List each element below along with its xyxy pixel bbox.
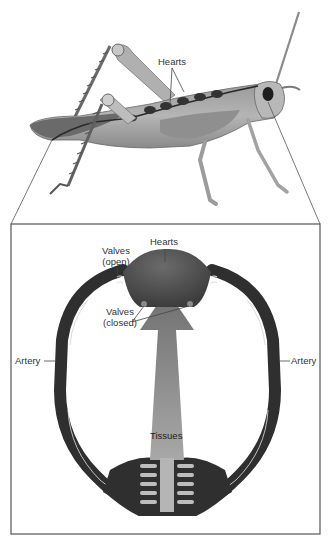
label-tissues: Tissues [150, 430, 182, 441]
figure-graphics [0, 0, 335, 542]
label-hearts-top: Hearts [158, 56, 186, 67]
open-circulatory-system-figure: Hearts Hearts Valves (open) Valves (clos… [0, 0, 335, 542]
label-valves-closed-line1: Valves [100, 306, 140, 317]
label-artery-left: Artery [15, 355, 40, 366]
label-valves-open-line2: (open) [96, 256, 136, 267]
label-hearts-detail: Hearts [150, 236, 178, 247]
grasshopper-illustration [30, 12, 300, 204]
label-valves-open-line1: Valves [96, 245, 136, 256]
label-artery-right: Artery [291, 355, 316, 366]
label-valves-closed: Valves (closed) [100, 306, 140, 328]
label-valves-open: Valves (open) [96, 245, 136, 267]
label-valves-closed-line2: (closed) [100, 317, 140, 328]
